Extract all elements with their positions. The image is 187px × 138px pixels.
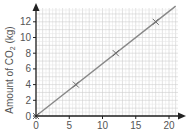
x-tick-label: 5 [66,120,72,131]
x-tick-label: 10 [97,120,109,131]
y-axis-label: Amount of CO2 (kg) [4,26,16,113]
x-tick-label: 15 [130,120,142,131]
y-tick-label: 6 [25,63,31,74]
y-tick-label: 2 [25,95,31,106]
co2-line-chart: 05101520 024681012 Amount of CO2 (kg) [0,0,187,138]
x-axis-arrow-icon [178,113,186,120]
y-axis-ticks: 024681012 [20,16,36,121]
x-tick-label: 0 [33,120,39,131]
x-tick-label: 20 [163,120,175,131]
y-tick-label: 8 [25,48,31,59]
y-tick-label: 4 [25,79,31,90]
x-axis-ticks: 05101520 [33,116,175,131]
y-tick-label: 10 [20,32,32,43]
y-tick-label: 12 [20,16,32,27]
y-tick-label: 0 [25,111,31,122]
y-axis-arrow-icon [33,3,40,11]
